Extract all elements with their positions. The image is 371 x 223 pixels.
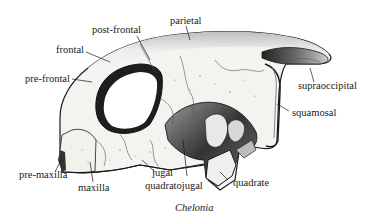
- figure-caption: Chelonia: [175, 202, 214, 213]
- skull-body: [58, 32, 331, 190]
- label-post-frontal: post-frontal: [92, 24, 141, 36]
- label-maxilla: maxilla: [78, 182, 110, 194]
- label-pre-maxilla: pre-maxilla: [19, 169, 67, 181]
- label-quadratojugal: quadratojugal: [145, 180, 203, 192]
- skull-diagram: parietal post-frontal frontal pre-fronta…: [0, 0, 371, 223]
- label-squamosal: squamosal: [292, 107, 336, 119]
- label-jugal: jugal: [152, 167, 173, 179]
- label-quadrate: quadrate: [233, 177, 269, 189]
- label-supraoccipital: supraoccipital: [298, 80, 357, 92]
- label-pre-frontal: pre-frontal: [25, 73, 70, 85]
- label-frontal: frontal: [56, 44, 84, 56]
- label-parietal: parietal: [170, 15, 201, 27]
